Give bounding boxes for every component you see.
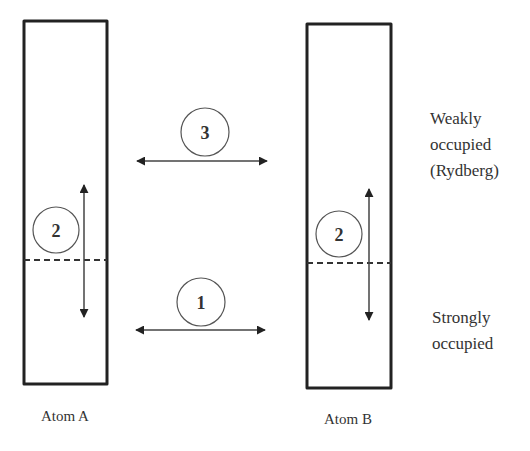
strongly-occupied-label: Strongly occupied <box>432 308 495 353</box>
upper-label-line-2: occupied <box>430 135 492 154</box>
upper-label-line-3: (Rydberg) <box>430 161 499 180</box>
atom-a-group: 2 Atom A <box>24 21 107 424</box>
process-1-group: 1 <box>136 278 265 330</box>
atom-a-process-2-number: 2 <box>52 221 61 241</box>
atom-a-orbital-box <box>24 21 107 384</box>
process-3-group: 3 <box>137 108 267 161</box>
atom-b-orbital-box <box>307 24 391 388</box>
lower-label-line-2: occupied <box>432 334 494 353</box>
atomic-orbital-interaction-diagram: 2 Atom A 2 Atom B 3 1 Weakly occupied (R… <box>0 0 530 451</box>
upper-label-line-1: Weakly <box>430 109 482 128</box>
atom-b-group: 2 Atom B <box>307 24 391 427</box>
process-1-number: 1 <box>197 293 206 313</box>
weakly-occupied-rydberg-label: Weakly occupied (Rydberg) <box>430 109 499 180</box>
process-3-number: 3 <box>201 123 210 143</box>
atom-b-process-2-number: 2 <box>335 225 344 245</box>
atom-b-label: Atom B <box>324 411 372 427</box>
lower-label-line-1: Strongly <box>432 308 491 327</box>
atom-a-label: Atom A <box>41 408 89 424</box>
